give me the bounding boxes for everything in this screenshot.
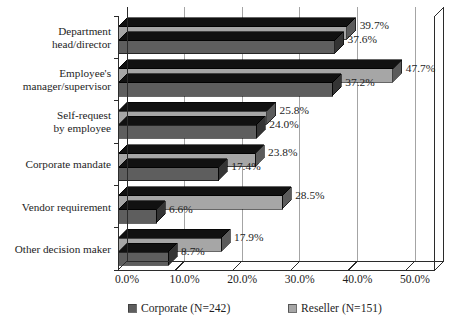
value-label-corporate-0: 37.6%	[348, 33, 378, 45]
value-label-corporate-2: 24.0%	[269, 118, 299, 130]
x-tick-label-50: 50.0%	[400, 273, 430, 286]
value-label-reseller-4: 28.5%	[295, 189, 325, 201]
legend-item-0[interactable]: Corporate (N=242)	[128, 302, 230, 315]
bar-corporate-0	[118, 32, 344, 54]
legend-item-1[interactable]: Reseller (N=151)	[288, 302, 382, 315]
value-label-reseller-2: 25.8%	[280, 104, 310, 116]
value-label-reseller-0: 39.7%	[360, 19, 390, 31]
value-label-reseller-3: 23.8%	[268, 146, 298, 158]
legend-label-1: Reseller (N=151)	[301, 302, 382, 315]
x-tick-label-20: 20.0%	[227, 273, 257, 286]
category-label-5: Other decision maker	[15, 243, 112, 255]
x-tick-label-10: 10.0%	[170, 273, 200, 286]
category-label-2: by employee	[54, 122, 112, 134]
category-label-1: manager/supervisor	[23, 80, 112, 92]
category-label-2: Self-request	[57, 109, 112, 121]
value-label-reseller-1: 47.7%	[406, 62, 436, 74]
x-tick-label-40: 40.0%	[342, 273, 372, 286]
bar-corporate-2	[118, 116, 265, 138]
category-label-3: Corporate mandate	[26, 158, 111, 170]
category-label-1: Employee's	[59, 67, 111, 79]
value-label-corporate-1: 37.2%	[345, 76, 375, 88]
chart-canvas: Departmenthead/directorEmployee'smanager…	[0, 0, 457, 326]
x-tick-label-0: 0.0%	[115, 273, 139, 286]
value-label-corporate-3: 17.4%	[231, 160, 261, 172]
value-label-corporate-4: 6.6%	[169, 203, 193, 215]
legend-swatch-corporate-icon	[128, 304, 136, 312]
value-label-corporate-5: 8.7%	[181, 245, 205, 257]
x-tick-label-30: 30.0%	[285, 273, 315, 286]
category-label-0: Department	[58, 25, 112, 37]
bar-corporate-1	[118, 74, 341, 96]
legend-swatch-reseller-icon	[288, 304, 296, 312]
bar-chart: Departmenthead/directorEmployee'smanager…	[0, 0, 457, 326]
legend-label-0: Corporate (N=242)	[141, 302, 230, 315]
bar-corporate-4	[118, 201, 165, 223]
bar-corporate-3	[118, 159, 227, 181]
category-label-4: Vendor requirement	[22, 201, 112, 213]
category-label-0: head/director	[52, 38, 111, 50]
value-label-reseller-5: 17.9%	[234, 231, 264, 243]
